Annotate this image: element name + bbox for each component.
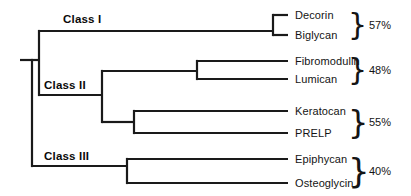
tree-branches (0, 0, 411, 196)
branch-lines (20, 14, 288, 184)
phylogenetic-tree-figure: Class I Class II Class III Decorin Bigly… (0, 0, 411, 196)
